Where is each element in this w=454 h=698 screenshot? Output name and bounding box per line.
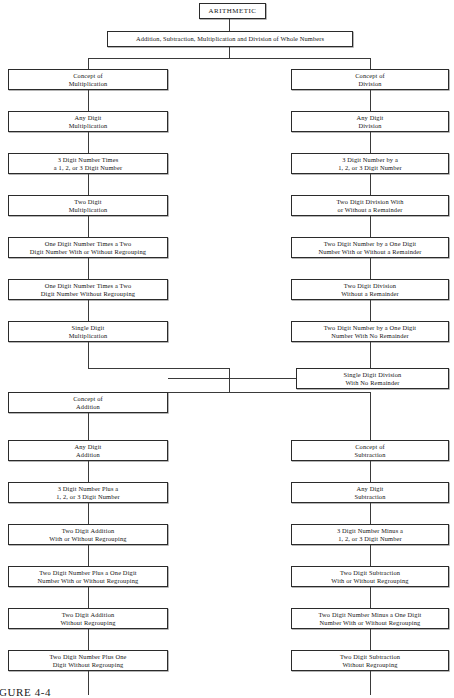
node-label: ARITHMETIC	[209, 7, 257, 15]
node-3-digit-by-123-digit: 3 Digit Number by a 1, 2, or 3 Digit Num…	[291, 153, 449, 174]
node-label-line1: Two Digit Subtraction	[340, 653, 400, 660]
node-one-digit-times-two-digit-with-regrouping: One Digit Number Times a Two Digit Numbe…	[8, 237, 168, 258]
node-two-digit-multiplication: Two Digit Multiplication	[8, 195, 168, 216]
connector-sub-1-2	[370, 503, 371, 524]
node-label-line2: 1, 2, or 3 Digit Number	[338, 164, 402, 171]
node-label-line1: Two Digit Subtraction	[340, 569, 400, 576]
node-label-line2: With No Remainder	[345, 379, 399, 386]
node-two-digit-by-one-digit-with-remainder: Two Digit Number by a One Digit Number W…	[291, 237, 449, 258]
connector-add-5-6	[88, 629, 89, 650]
node-single-digit-division-no-remainder: Single Digit Division With No Remainder	[296, 368, 449, 389]
node-concept-of-addition: Concept of Addition	[8, 392, 168, 413]
connector-add-1-2	[88, 461, 89, 482]
node-two-digit-subtraction-without-regrouping: Two Digit Subtraction Without Regrouping	[291, 650, 449, 671]
connector-div-6-7	[370, 342, 371, 368]
connector-div-0-1	[370, 90, 371, 111]
connector-root-to-banner	[229, 19, 230, 31]
node-label-line2: 1, 2, or 3 Digit Number	[338, 535, 402, 542]
node-label-line1: One Digit Number Times a Two	[45, 282, 132, 289]
node-3-digit-plus-123-digit: 3 Digit Number Plus a 1, 2, or 3 Digit N…	[8, 482, 168, 503]
node-label-line1: One Digit Number Times a Two	[45, 240, 132, 247]
connector-div-3-4	[370, 216, 371, 237]
node-label-line1: 3 Digit Number Plus a	[58, 485, 119, 492]
node-label-line1: Two Digit Addition	[62, 611, 115, 618]
node-label-line2: Division	[358, 80, 381, 87]
connector-mult-4-5	[88, 258, 89, 279]
node-label-line2: With or Without Regrouping	[49, 535, 126, 542]
node-label-line2: or Without a Remainder	[338, 206, 403, 213]
connector-sub-3-4	[370, 587, 371, 608]
node-concept-of-multiplication: Concept of Multiplication	[8, 69, 168, 90]
connector-mult-5-6	[88, 300, 89, 321]
connector-mult-2-3	[88, 174, 89, 195]
figure-caption: FIGURE 4-4	[0, 686, 51, 698]
node-two-digit-by-one-digit-no-remainder: Two Digit Number by a One Digit Number W…	[291, 321, 449, 342]
node-label-line2: Without a Remainder	[341, 290, 399, 297]
node-label-line2: Addition	[76, 451, 100, 458]
node-label-line1: Two Digit	[74, 198, 101, 205]
connector-top-bus	[88, 58, 371, 59]
connector-add-2-3	[88, 503, 89, 524]
node-any-digit-addition: Any Digit Addition	[8, 440, 168, 461]
node-label-line2: Multiplication	[69, 80, 108, 87]
node-concept-of-division: Concept of Division	[291, 69, 449, 90]
connector-mult-tail-bus	[88, 368, 230, 369]
node-label-line2: Number With or Without a Remainder	[318, 248, 421, 255]
node-label-line2: Multiplication	[69, 122, 108, 129]
node-label: Addition, Subtraction, Multiplication an…	[136, 35, 324, 42]
node-two-digit-plus-one-digit-with-regrouping: Two Digit Number Plus a One Digit Number…	[8, 566, 168, 587]
node-any-digit-subtraction: Any Digit Subtraction	[291, 482, 449, 503]
node-label-line1: Any Digit	[356, 114, 383, 121]
node-whole-numbers-banner: Addition, Subtraction, Multiplication an…	[107, 31, 353, 47]
node-one-digit-times-two-digit-without-regrouping: One Digit Number Times a Two Digit Numbe…	[8, 279, 168, 300]
connector-div-1-2	[370, 132, 371, 153]
node-label-line1: Any Digit	[74, 443, 101, 450]
node-label-line2: Digit Without Regrouping	[53, 661, 124, 668]
node-any-digit-division: Any Digit Division	[291, 111, 449, 132]
node-label-line2: 1, 2, or 3 Digit Number	[56, 493, 120, 500]
node-label-line2: Without Regrouping	[342, 661, 397, 668]
node-label-line1: Concept of	[355, 72, 385, 79]
connector-add-tail	[88, 671, 89, 695]
connector-banner-stem	[229, 47, 230, 58]
connector-div-tail-to-addition	[168, 378, 296, 379]
node-label-line1: Two Digit Number by a One Digit	[324, 324, 417, 331]
connector-mult-3-4	[88, 216, 89, 237]
node-label-line1: Two Digit Addition	[62, 527, 115, 534]
node-3-digit-minus-123-digit: 3 Digit Number Minus a 1, 2, or 3 Digit …	[291, 524, 449, 545]
connector-bus-to-division	[370, 58, 371, 69]
node-label-line1: Two Digit Division	[344, 282, 396, 289]
node-two-digit-division-with-remainder: Two Digit Division With or Without a Rem…	[291, 195, 449, 216]
connector-div-5-6	[370, 300, 371, 321]
node-label-line1: Concept of	[73, 395, 103, 402]
connector-add-4-5	[88, 587, 89, 608]
connector-bus-to-multiplication	[88, 58, 89, 69]
node-label-line2: Multiplication	[69, 332, 108, 339]
connector-mult-1-2	[88, 132, 89, 153]
node-label-line1: Concept of	[355, 443, 385, 450]
node-label-line2: Subtraction	[354, 451, 385, 458]
node-label-line1: Concept of	[73, 72, 103, 79]
node-label-line2: Multiplication	[69, 206, 108, 213]
node-two-digit-division-without-remainder: Two Digit Division Without a Remainder	[291, 279, 449, 300]
node-label-line1: Two Digit Number by a One Digit	[324, 240, 417, 247]
connector-mult-tail	[88, 342, 89, 369]
node-label-line1: Two Digit Number Plus One	[49, 653, 126, 660]
connector-sub-tail	[370, 671, 371, 695]
node-label-line2: Without Regrouping	[60, 619, 115, 626]
node-two-digit-addition-with-regrouping: Two Digit Addition With or Without Regro…	[8, 524, 168, 545]
node-label-line1: Two Digit Number Minus a One Digit	[319, 611, 422, 618]
node-two-digit-minus-one-digit-with-regrouping: Two Digit Number Minus a One Digit Numbe…	[291, 608, 449, 629]
connector-lower-bus	[168, 392, 371, 393]
node-label-line1: Any Digit	[356, 485, 383, 492]
node-two-digit-addition-without-regrouping: Two Digit Addition Without Regrouping	[8, 608, 168, 629]
node-label-line2: a 1, 2, or 3 Digit Number	[54, 164, 122, 171]
connector-sub-0-1	[370, 461, 371, 482]
node-label-line2: Number With No Remainder	[331, 332, 409, 339]
connector-mult-tail-down	[229, 368, 230, 392]
node-label-line1: Two Digit Division With	[336, 198, 403, 205]
node-label-line1: 3 Digit Number by a	[342, 156, 398, 163]
node-label-line2: Digit Number Without Regrouping	[41, 290, 135, 297]
node-label-line1: 3 Digit Number Minus a	[337, 527, 403, 534]
